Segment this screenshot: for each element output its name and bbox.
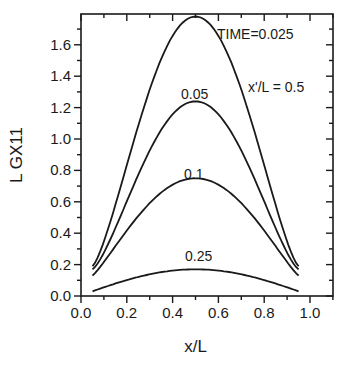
x-tick-label: 0.2 xyxy=(116,304,137,321)
y-tick-label: 1.6 xyxy=(50,36,71,53)
y-tick-label: 0.0 xyxy=(50,287,71,304)
y-tick-label: 1.2 xyxy=(50,99,71,116)
y-tick-label: 0.6 xyxy=(50,193,71,210)
chart: 0.00.20.40.60.81.00.00.20.40.60.81.01.21… xyxy=(0,0,350,367)
x-tick-label: 0.6 xyxy=(208,304,229,321)
y-tick-label: 1.4 xyxy=(50,67,71,84)
curve-label-025: 0.25 xyxy=(185,248,212,264)
y-axis-title: L GX11 xyxy=(7,127,26,183)
x-tick-label: 1.0 xyxy=(300,304,321,321)
curve-label-01: 0.1 xyxy=(184,166,204,182)
parameter-annotation: x'/L = 0.5 xyxy=(248,79,304,95)
curve-0.05 xyxy=(93,101,299,269)
y-tick-label: 0.4 xyxy=(50,224,71,241)
y-tick-label: 1.0 xyxy=(50,130,71,147)
x-tick-label: 0.8 xyxy=(254,304,275,321)
x-axis-title: x/L xyxy=(184,337,207,356)
x-tick-label: 0.0 xyxy=(71,304,92,321)
curve-0.25 xyxy=(93,269,299,291)
curve-label-005: 0.05 xyxy=(181,86,208,102)
y-tick-label: 0.2 xyxy=(50,256,71,273)
y-tick-label: 0.8 xyxy=(50,161,71,178)
curve-label-0025: TIME=0.025 xyxy=(217,26,294,42)
curve-TIME=0.025 xyxy=(93,17,299,267)
x-tick-label: 0.4 xyxy=(162,304,183,321)
